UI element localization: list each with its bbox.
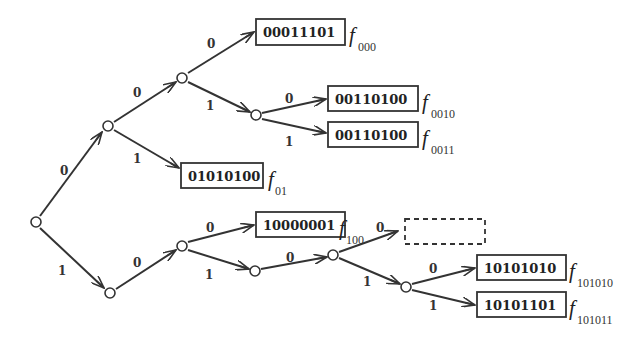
function-subscript: 0011 xyxy=(431,143,455,157)
leaf-000: 00011101 f 000 xyxy=(256,19,376,54)
edge-label: 1 xyxy=(133,152,141,166)
edge-10-101 xyxy=(188,250,249,269)
node-0 xyxy=(103,121,113,131)
node-10101 xyxy=(401,282,411,292)
edge-root-0 xyxy=(40,132,102,216)
empty-dashed-box xyxy=(405,219,485,244)
code-value: 00110100 xyxy=(335,92,407,107)
code-value: 10000001 xyxy=(263,218,335,233)
edge-label: 1 xyxy=(206,99,214,113)
node-10 xyxy=(177,241,187,251)
edge-label: 0 xyxy=(60,164,68,178)
leaf-01: 01010100 f 01 xyxy=(181,163,287,198)
edge-10101-101010 xyxy=(412,268,475,284)
function-subscript: 0010 xyxy=(431,107,455,121)
edge-001-0010 xyxy=(262,99,326,113)
function-subscript: 101011 xyxy=(577,313,613,327)
function-subscript: 01 xyxy=(275,184,287,198)
edge-10-100 xyxy=(188,225,254,242)
edge-001-0011 xyxy=(262,119,326,133)
code-value: 10101010 xyxy=(484,261,556,276)
leaf-101010: 10101010 f 101010 xyxy=(477,255,613,290)
node-00 xyxy=(177,73,187,83)
edge-0-01 xyxy=(114,130,179,168)
code-value: 00011101 xyxy=(263,25,335,40)
edge-label: 0 xyxy=(206,221,214,235)
edge-10101-101011 xyxy=(412,290,475,305)
leaf-empty xyxy=(405,219,485,244)
edge-label: 1 xyxy=(285,135,293,149)
node-001 xyxy=(251,110,261,120)
edge-label: 0 xyxy=(133,86,141,100)
edge-label: 0 xyxy=(207,37,215,51)
edge-label: 0 xyxy=(285,92,293,106)
edge-label: 0 xyxy=(429,262,437,276)
node-101 xyxy=(250,266,260,276)
edge-0-00 xyxy=(114,82,176,122)
code-value: 00110100 xyxy=(335,128,407,143)
function-subscript: 100 xyxy=(346,233,364,247)
node-root xyxy=(31,217,41,227)
edge-1-10 xyxy=(116,250,176,289)
edge-label: 1 xyxy=(205,268,213,282)
edge-label: 0 xyxy=(286,251,294,265)
node-1 xyxy=(105,288,115,298)
edge-root-1 xyxy=(40,228,104,288)
function-subscript: 000 xyxy=(358,40,376,54)
leaf-0010: 00110100 f 0010 xyxy=(328,86,455,121)
code-tree-diagram: 0 1 0 1 0 1 0 1 0 0 1 0 0 1 0 1 00011101… xyxy=(0,0,633,341)
edge-label: 1 xyxy=(363,275,371,289)
function-subscript: 101010 xyxy=(577,276,613,290)
node-1010 xyxy=(328,250,338,260)
edge-label: 0 xyxy=(376,221,384,235)
function-label: f xyxy=(422,90,431,114)
edge-label: 1 xyxy=(58,264,66,278)
leaf-101011: 10101101 f 101011 xyxy=(477,292,613,327)
leaf-0011: 00110100 f 0011 xyxy=(328,122,455,157)
edge-label: 1 xyxy=(429,299,437,313)
leaf-100: 10000001 f 100 xyxy=(256,212,364,247)
edge-label: 0 xyxy=(133,256,141,270)
function-label: f xyxy=(349,23,358,47)
edge-00-001 xyxy=(188,82,250,112)
edge-00-000 xyxy=(188,32,254,73)
code-value: 10101101 xyxy=(484,298,556,313)
code-value: 01010100 xyxy=(188,169,260,184)
function-label: f xyxy=(422,126,431,150)
